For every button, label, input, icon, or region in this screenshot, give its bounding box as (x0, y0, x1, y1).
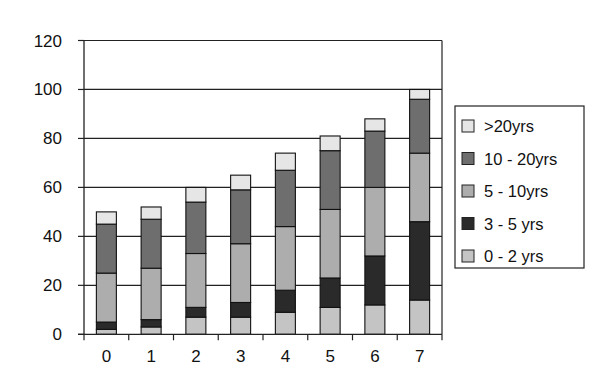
legend-swatch (462, 250, 474, 262)
bar-segment (231, 190, 251, 244)
bar-segment (365, 119, 385, 131)
bar-segment (231, 302, 251, 317)
bar-segment (365, 305, 385, 334)
bar-segment (141, 268, 161, 319)
bar-segment (96, 212, 116, 224)
x-tick-label: 1 (146, 347, 155, 366)
bar-segment (141, 327, 161, 334)
bar-segment (96, 329, 116, 334)
bar-segment (186, 254, 206, 308)
bar-segment (320, 278, 340, 307)
legend-label: 5 - 10yrs (484, 182, 548, 200)
bar-stack-3 (231, 175, 251, 334)
y-axis-tick-labels: 020406080100120 (34, 32, 62, 345)
bar-segment (410, 222, 430, 300)
bar-segment (320, 209, 340, 278)
bar-segment (365, 187, 385, 256)
legend-label: 3 - 5 yrs (484, 215, 544, 233)
bar-segment (141, 219, 161, 268)
bar-segment (275, 170, 295, 226)
bar-segment (320, 151, 340, 210)
legend-swatch (462, 218, 474, 230)
bar-segment (320, 307, 340, 334)
legend-swatch (462, 153, 474, 165)
bar-segment (96, 322, 116, 329)
bar-stack-1 (141, 207, 161, 334)
bar-stack-6 (365, 119, 385, 334)
bar-segment (141, 207, 161, 219)
bar-segment (275, 227, 295, 291)
bar-segment (410, 300, 430, 334)
y-tick-label: 60 (43, 178, 62, 197)
bar-stack-2 (186, 187, 206, 334)
x-tick-label: 0 (102, 347, 111, 366)
legend-label: 10 - 20yrs (484, 150, 557, 168)
gridlines (84, 41, 442, 286)
bar-segment (410, 99, 430, 153)
bar-segment (96, 273, 116, 322)
bar-segment (186, 202, 206, 253)
bar-stack-7 (410, 89, 430, 334)
legend: >20yrs10 - 20yrs5 - 10yrs3 - 5 yrs0 - 2 … (455, 106, 584, 268)
bar-segment (275, 312, 295, 334)
bar-segment (186, 307, 206, 317)
y-tick-label: 100 (34, 80, 62, 99)
y-tick-label: 120 (34, 32, 62, 51)
bar-segment (186, 187, 206, 202)
legend-swatch (462, 185, 474, 197)
y-tick-label: 40 (43, 227, 62, 246)
bar-segment (410, 89, 430, 99)
stacked-bar-chart: 020406080100120 01234567 >20yrs10 - 20yr… (0, 0, 605, 391)
bar-segment (186, 317, 206, 334)
bar-stack-4 (275, 153, 295, 334)
bar-segment (410, 153, 430, 222)
bar-segment (141, 320, 161, 327)
legend-label: 0 - 2 yrs (484, 247, 544, 265)
y-tick-label: 0 (53, 325, 62, 344)
bars (96, 89, 429, 334)
bar-segment (365, 131, 385, 187)
bar-segment (275, 290, 295, 312)
bar-segment (231, 317, 251, 334)
x-tick-label: 6 (370, 347, 379, 366)
bar-stack-5 (320, 136, 340, 334)
x-tick-label: 5 (325, 347, 334, 366)
x-tick-label: 4 (281, 347, 290, 366)
bar-segment (275, 153, 295, 170)
bar-stack-0 (96, 212, 116, 334)
y-tick-label: 80 (43, 129, 62, 148)
axes (78, 41, 442, 341)
legend-label: >20yrs (484, 117, 534, 135)
bar-segment (320, 136, 340, 151)
bar-segment (96, 224, 116, 273)
x-tick-label: 7 (415, 347, 424, 366)
x-axis-tick-labels: 01234567 (102, 347, 425, 366)
x-tick-label: 2 (191, 347, 200, 366)
x-tick-label: 3 (236, 347, 245, 366)
legend-swatch (462, 120, 474, 132)
bar-segment (231, 175, 251, 190)
y-tick-label: 20 (43, 276, 62, 295)
bar-segment (365, 256, 385, 305)
bar-segment (231, 244, 251, 303)
